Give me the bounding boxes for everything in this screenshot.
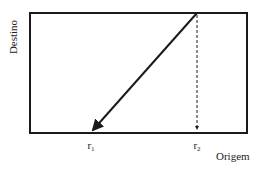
marker-r2-subscript: 2	[197, 145, 201, 153]
plot-frame	[30, 13, 247, 133]
x-axis-label: Origem	[216, 151, 250, 162]
mapping-arrow	[93, 13, 197, 130]
marker-r1-subscript: 1	[91, 145, 95, 153]
marker-r1: r1	[87, 140, 94, 153]
diagram-canvas	[0, 0, 261, 170]
y-axis-label: Destino	[8, 20, 19, 54]
marker-r2: r2	[193, 140, 200, 153]
